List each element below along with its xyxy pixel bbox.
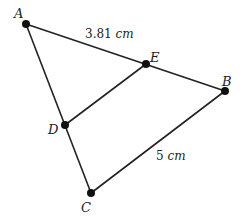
measurement-ae: 3.81 cm bbox=[85, 27, 134, 41]
segment-ac bbox=[26, 24, 91, 193]
label-b: B bbox=[221, 74, 232, 89]
point-a bbox=[22, 20, 30, 28]
points bbox=[22, 20, 229, 197]
segment-bc bbox=[91, 91, 225, 193]
measurement-bc: 5 cm bbox=[156, 149, 186, 163]
point-d bbox=[61, 121, 69, 129]
label-a: A bbox=[13, 6, 23, 21]
triangle-diagram: A B C D E 3.81 cm 5 cm bbox=[0, 0, 243, 220]
point-c bbox=[87, 189, 95, 197]
segments bbox=[26, 24, 225, 193]
label-c: C bbox=[81, 200, 91, 215]
measurements: 3.81 cm 5 cm bbox=[85, 27, 186, 163]
label-d: D bbox=[47, 122, 59, 137]
label-e: E bbox=[149, 50, 160, 65]
segment-de bbox=[65, 64, 146, 125]
point-e bbox=[142, 60, 150, 68]
